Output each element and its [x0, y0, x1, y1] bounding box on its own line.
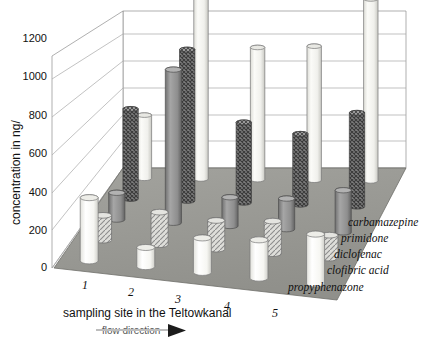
- legend-item-diclofenac: diclofenac: [334, 248, 382, 261]
- bar-cylinder: [151, 209, 168, 247]
- x-tick-site-1: 1: [82, 278, 88, 292]
- chart-figure: 1200 1000 800 600 400 200 0 concentratio…: [0, 0, 445, 347]
- legend-item-primidone: primidone: [340, 232, 388, 245]
- legend-item-carbamazepine: carbamazepine: [348, 216, 418, 229]
- x-tick-site-5: 5: [272, 306, 278, 320]
- x-tick-site-3: 3: [174, 292, 181, 306]
- bar-chart-3d: 1200 1000 800 600 400 200 0 concentratio…: [0, 0, 445, 347]
- y-tick-1000: 1000: [23, 70, 47, 82]
- flow-direction-annotation: flow direction: [96, 324, 186, 337]
- bar-cylinder: [80, 195, 98, 264]
- legend-item-clofibric-acid: clofibric acid: [327, 264, 389, 277]
- y-axis-ticks: 1200 1000 800 600 400 200 0: [23, 32, 47, 273]
- bar-cylinder: [236, 120, 251, 205]
- bar-cylinder: [165, 67, 181, 226]
- y-axis-title: concentration in ng/: [9, 120, 23, 225]
- flow-direction-arrow-icon: [168, 324, 186, 337]
- bar-cylinder: [193, 235, 211, 275]
- bar-cylinder: [123, 106, 138, 201]
- bar-cylinder: [194, 0, 208, 181]
- y-tick-1200: 1200: [23, 32, 47, 44]
- x-tick-site-2: 2: [128, 285, 134, 299]
- bar-cylinder: [364, 0, 378, 183]
- y-tick-600: 600: [29, 147, 47, 159]
- bar-cylinder: [293, 131, 308, 207]
- bar-cylinder: [307, 44, 321, 183]
- bar-cylinder: [250, 45, 264, 182]
- x-axis-title: sampling site in the Teltowkanal: [63, 306, 232, 320]
- bar-cylinder: [137, 113, 151, 181]
- bar-cylinder: [137, 244, 155, 269]
- y-tick-200: 200: [29, 224, 47, 236]
- y-tick-800: 800: [29, 109, 47, 121]
- bar-cylinder: [250, 237, 268, 281]
- legend-item-propyphenazone: propyphenazone: [287, 281, 364, 294]
- bar-cylinder: [307, 231, 325, 287]
- y-tick-400: 400: [29, 186, 47, 198]
- y-tick-0: 0: [41, 261, 47, 273]
